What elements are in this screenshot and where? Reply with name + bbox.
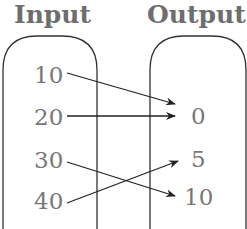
input-value: 30 bbox=[34, 147, 63, 173]
output-value: 10 bbox=[184, 184, 213, 210]
output-value: 5 bbox=[191, 146, 206, 172]
arrow-10-to-0 bbox=[67, 73, 175, 104]
input-value: 10 bbox=[34, 62, 63, 88]
input-value: 40 bbox=[34, 188, 63, 214]
output-value: 0 bbox=[191, 103, 206, 129]
input-value: 20 bbox=[34, 104, 63, 130]
arrow-30-to-10 bbox=[67, 162, 175, 196]
